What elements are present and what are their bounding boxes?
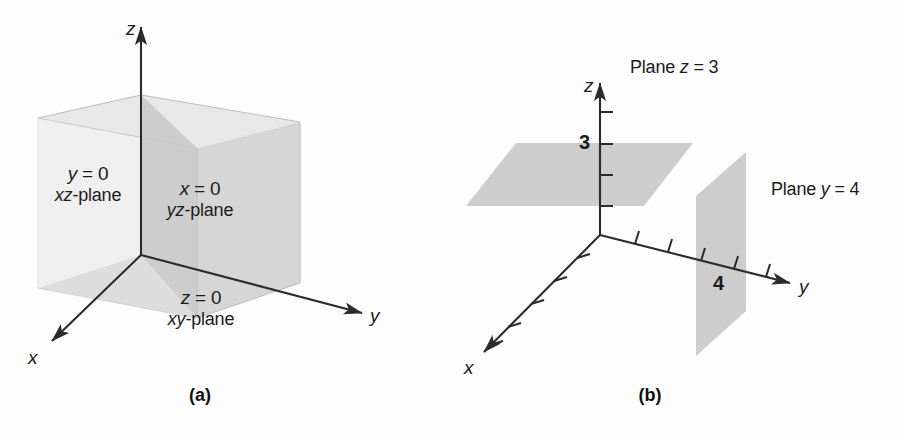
panel-b-x-axis-label: x bbox=[464, 357, 473, 379]
xy-plane-name-rest: -plane bbox=[185, 309, 234, 329]
plane-z-3-suffix: = 3 bbox=[689, 57, 719, 77]
xz-plane-equation-var: y bbox=[68, 163, 77, 184]
y-tick-label-4: 4 bbox=[713, 272, 724, 296]
plane-z-3-annotation: Plane z = 3 bbox=[630, 57, 718, 78]
xy-plane-label: z = 0 xy-plane bbox=[146, 287, 256, 331]
figure-root: z y x y = 0 xz-plane x = 0 yz-plane z = … bbox=[0, 0, 900, 436]
xy-plane-equation-rest: = 0 bbox=[190, 287, 221, 308]
y-axis bbox=[600, 235, 790, 283]
xz-plane-name-var: xz bbox=[55, 185, 73, 205]
panel-a-coordinate-planes: z y x y = 0 xz-plane x = 0 yz-plane z = … bbox=[0, 0, 450, 436]
xy-plane-equation: z = 0 bbox=[146, 287, 256, 309]
panel-b-caption: (b) bbox=[450, 385, 850, 406]
yz-plane-name: yz-plane bbox=[146, 200, 254, 221]
xy-plane-equation-var: z bbox=[181, 287, 190, 308]
plane-y-4-variable: y bbox=[821, 179, 830, 199]
panel-a-z-axis-label: z bbox=[126, 18, 135, 40]
plane-y-4-suffix: = 4 bbox=[830, 179, 860, 199]
yz-plane-name-rest: -plane bbox=[184, 200, 233, 220]
panel-b-z-axis-label: z bbox=[584, 75, 593, 97]
xy-plane-name-var: xy bbox=[168, 309, 186, 329]
plane-z-3-prefix: Plane bbox=[630, 57, 680, 77]
panel-b-parallel-planes: z y x 3 4 Plane z = 3 Plane y = 4 (b) bbox=[450, 0, 900, 436]
yz-plane-equation: x = 0 bbox=[146, 178, 254, 200]
plane-y-4-annotation: Plane y = 4 bbox=[771, 179, 859, 200]
yz-plane-name-var: yz bbox=[167, 200, 185, 220]
xz-plane-name-rest: -plane bbox=[72, 185, 121, 205]
plane-y-4-prefix: Plane bbox=[771, 179, 821, 199]
panel-a-x-axis-label: x bbox=[28, 347, 37, 369]
xy-plane-name: xy-plane bbox=[146, 309, 256, 330]
z-tick-label-3: 3 bbox=[579, 131, 590, 155]
xz-plane-equation-rest: = 0 bbox=[77, 163, 108, 184]
y-tick bbox=[635, 231, 639, 244]
yz-plane-equation-rest: = 0 bbox=[189, 178, 220, 199]
y-tick bbox=[766, 264, 770, 277]
yz-plane-label: x = 0 yz-plane bbox=[146, 178, 254, 222]
panel-b-y-axis-label: y bbox=[799, 276, 808, 298]
x-axis bbox=[484, 235, 600, 352]
xz-plane-name: xz-plane bbox=[36, 185, 140, 206]
panel-a-caption: (a) bbox=[0, 385, 400, 406]
plane-z-3-variable: z bbox=[680, 57, 689, 77]
yz-plane-equation-var: x bbox=[180, 178, 189, 199]
xz-plane-label: y = 0 xz-plane bbox=[36, 163, 140, 207]
panel-a-y-axis-label: y bbox=[370, 305, 379, 327]
y-tick bbox=[668, 239, 672, 252]
xz-plane-equation: y = 0 bbox=[36, 163, 140, 185]
